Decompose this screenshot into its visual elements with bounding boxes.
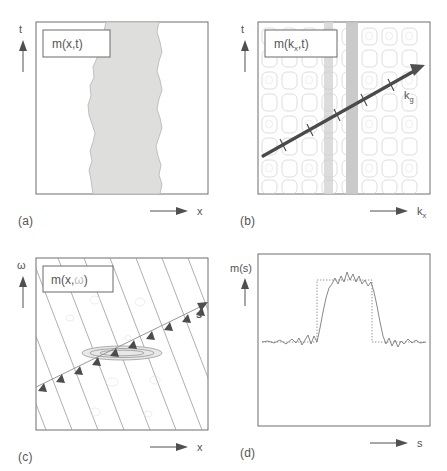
panel-c-y-axis-label: ω (17, 259, 26, 271)
panel-a-letter: (a) (18, 214, 33, 228)
panel-c-y-axis-arrowhead (19, 276, 27, 287)
panel-a-inset-label: m(x,t) (52, 37, 83, 51)
panel-a-x-axis-label: x (197, 205, 203, 217)
panel-b-letter: (b) (240, 214, 255, 228)
panel-c-ellipse-feature (82, 346, 162, 360)
panel-b-x-axis-label: kx (417, 205, 427, 220)
panel-b: m(kx,t) kg t kx (b) (224, 0, 447, 240)
panel-b-inset-label: m(kx,t) (274, 37, 309, 53)
panel-b-y-axis-label: t (241, 23, 244, 35)
panel-c: m(x,ω) s ω x (c) (0, 240, 224, 471)
panel-c-inset-label: m(x,ω) (51, 273, 88, 287)
panel-d: m(s) s (d) (224, 240, 447, 471)
panel-c-x-axis-label: x (197, 441, 203, 453)
panel-c-line-label: s (196, 308, 202, 320)
panel-d-y-axis-label: m(s) (230, 262, 252, 274)
panel-a: m(x,t) t x (a) (0, 0, 224, 240)
panel-d-letter: (d) (240, 446, 255, 460)
panel-b-y-axis-arrowhead (241, 40, 249, 51)
panel-a-y-axis-arrowhead (19, 40, 27, 51)
panel-a-y-axis-label: t (19, 23, 22, 35)
panel-b-x-axis-arrowhead (396, 207, 408, 215)
panel-c-letter: (c) (18, 450, 33, 464)
panel-d-y-axis-arrowhead (241, 278, 249, 289)
panel-d-x-axis-arrowhead (396, 439, 408, 447)
panel-a-x-axis-arrowhead (176, 207, 188, 215)
panel-c-x-axis-arrowhead (176, 443, 188, 451)
figure-container: m(x,t) t x (a) (0, 0, 447, 471)
panel-d-x-axis-label: s (417, 437, 423, 449)
